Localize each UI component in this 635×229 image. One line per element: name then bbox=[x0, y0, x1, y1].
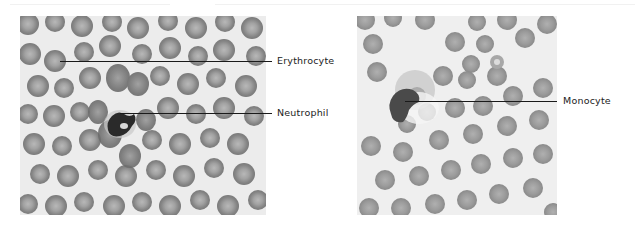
neutrophil-cell bbox=[104, 110, 136, 138]
faint-top-rule-left bbox=[10, 4, 170, 5]
leader-line-erythrocyte bbox=[60, 61, 272, 62]
label-neutrophil: Neutrophil bbox=[277, 107, 329, 118]
micrograph-right-image bbox=[357, 16, 557, 215]
faint-top-rule-right bbox=[215, 4, 635, 5]
micrograph-left-image bbox=[20, 16, 266, 215]
micrograph-right bbox=[357, 16, 557, 215]
micrograph-left bbox=[20, 16, 266, 215]
label-monocyte: Monocyte bbox=[563, 95, 611, 106]
leader-line-monocyte bbox=[405, 101, 557, 102]
label-erythrocyte: Erythrocyte bbox=[277, 55, 334, 66]
leader-line-neutrophil bbox=[120, 113, 272, 114]
